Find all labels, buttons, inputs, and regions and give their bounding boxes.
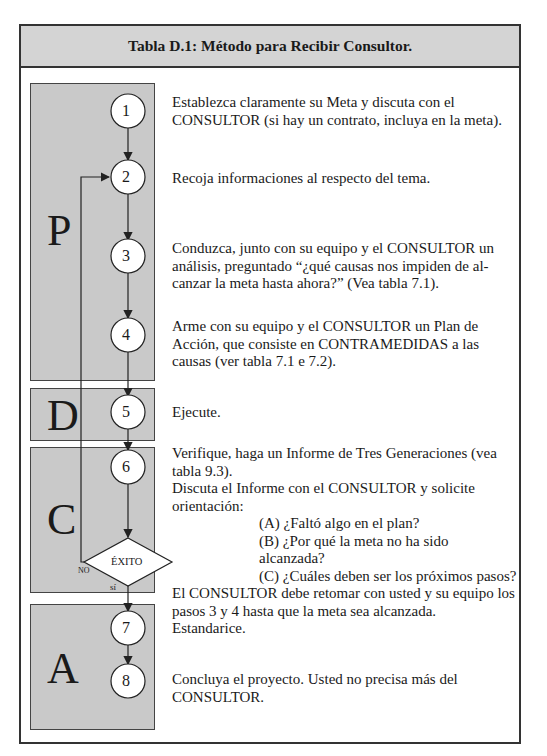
- decision-no-label: NO: [78, 566, 90, 575]
- step-7-text: Estandarice.: [172, 620, 517, 638]
- step-2-text: Recoja informaciones al respecto del tem…: [172, 170, 517, 188]
- question-a: (A) ¿Faltó algo en el plan?: [172, 515, 517, 533]
- question-c: (C) ¿Cuáles deben ser los próximos pasos…: [172, 568, 517, 586]
- step-number-2: 2: [122, 168, 130, 186]
- decision-label: ÉXITO: [111, 556, 142, 567]
- step-6-text: Verifique, haga un Informe de Tres Gener…: [172, 445, 517, 620]
- step-number-3: 3: [122, 247, 130, 265]
- step-8-text: Concluya el proyecto. Usted no precisa m…: [172, 671, 517, 706]
- step-number-8: 8: [122, 672, 130, 690]
- step-3-text: Conduzca, junto con su equipo y el CONSU…: [172, 240, 517, 293]
- step-number-5: 5: [122, 403, 130, 421]
- decision-yes-label: sí: [110, 582, 116, 592]
- step-number-6: 6: [122, 458, 130, 476]
- step-number-7: 7: [122, 619, 130, 637]
- step-4-text: Arme con su equipo y el CONSULTOR un Pla…: [172, 318, 517, 371]
- step-1-text: Establezca claramente su Meta y discuta …: [172, 94, 517, 129]
- step-5-text: Ejecute.: [172, 404, 517, 422]
- question-b: (B) ¿Por qué la meta no ha sido alcanzad…: [172, 533, 517, 568]
- step-number-1: 1: [122, 102, 130, 120]
- step-number-4: 4: [122, 326, 130, 344]
